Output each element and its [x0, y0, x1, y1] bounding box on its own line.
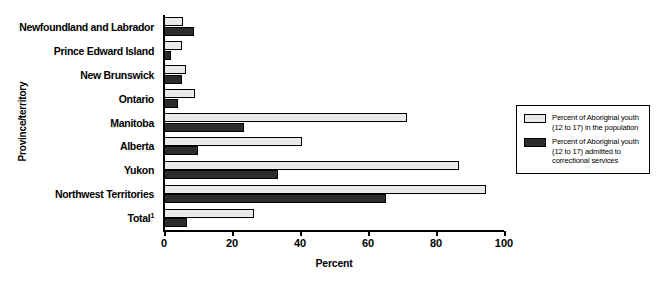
- bar-corrections: [164, 75, 182, 84]
- x-axis-tick: [232, 231, 234, 236]
- legend: Percent of Aboriginal youth(12 to 17) in…: [516, 105, 650, 174]
- category-label: Yukon: [0, 164, 154, 176]
- bar-population: [164, 137, 302, 146]
- category-label: Ontario: [0, 93, 154, 105]
- bar-corrections: [164, 99, 178, 108]
- bar-corrections: [164, 170, 278, 179]
- category-label: Prince Edward Island: [0, 45, 154, 57]
- plot-area: 020406080100: [164, 15, 504, 230]
- legend-swatch-light: [524, 114, 546, 123]
- bar-population: [164, 89, 195, 98]
- legend-item: Percent of Aboriginal youth(12 to 17) in…: [524, 113, 643, 132]
- x-axis-tick: [300, 231, 302, 236]
- bar-population: [164, 185, 486, 194]
- legend-label: Percent of Aboriginal youth(12 to 17) in…: [552, 113, 639, 132]
- x-axis-tick-label: 80: [416, 237, 456, 249]
- x-axis-tick-label: 100: [484, 237, 524, 249]
- bar-corrections: [164, 51, 171, 60]
- bar-population: [164, 209, 254, 218]
- bar-corrections: [164, 123, 244, 132]
- x-axis-tick-label: 60: [348, 237, 388, 249]
- x-axis-tick: [368, 231, 370, 236]
- bar-population: [164, 65, 186, 74]
- bar-chart: Province/territory Newfoundland and Labr…: [0, 0, 660, 291]
- category-label: Newfoundland and Labrador: [0, 21, 154, 33]
- x-axis-tick: [436, 231, 438, 236]
- x-axis-tick-label: 20: [212, 237, 252, 249]
- category-label: Alberta: [0, 140, 154, 152]
- category-label: New Brunswick: [0, 69, 154, 81]
- x-axis-tick: [504, 231, 506, 236]
- bar-corrections: [164, 194, 386, 203]
- bar-corrections: [164, 146, 198, 155]
- legend-item: Percent of Aboriginal youth(12 to 17) ad…: [524, 137, 643, 166]
- category-axis-labels: Newfoundland and LabradorPrince Edward I…: [0, 15, 160, 230]
- x-axis-tick-label: 0: [144, 237, 184, 249]
- x-axis-title: Percent: [164, 257, 504, 269]
- bar-population: [164, 113, 407, 122]
- legend-swatch-dark: [524, 138, 546, 147]
- bar-corrections: [164, 27, 194, 36]
- legend-label: Percent of Aboriginal youth(12 to 17) ad…: [552, 137, 639, 166]
- x-axis-tick: [164, 231, 166, 236]
- bar-population: [164, 41, 182, 50]
- category-label: Manitoba: [0, 117, 154, 129]
- category-label: Total1: [0, 212, 154, 224]
- bar-corrections: [164, 218, 187, 227]
- bar-population: [164, 161, 459, 170]
- bar-population: [164, 17, 183, 26]
- x-axis-line: [163, 230, 504, 232]
- category-label: Northwest Territories: [0, 188, 154, 200]
- x-axis-tick-label: 40: [280, 237, 320, 249]
